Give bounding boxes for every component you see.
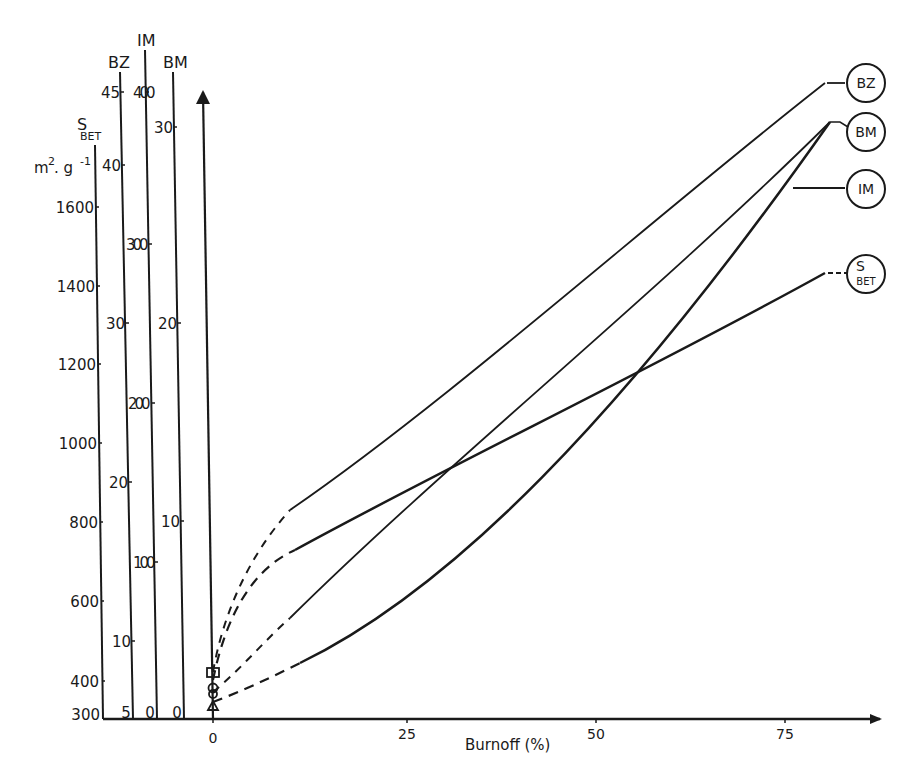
im-tick: 200 <box>128 395 150 413</box>
legend-item-bm: BM <box>847 113 885 151</box>
bz-axis-title: BZ <box>108 53 130 72</box>
bz-tick: 40 <box>102 157 121 175</box>
y-arrow-axis <box>203 92 213 719</box>
x-tick-25: 25 <box>398 726 416 742</box>
sbet-tick: 800 <box>69 514 98 532</box>
series-bz <box>213 83 845 672</box>
sbet-units-g: . g <box>54 159 73 177</box>
legend-item-sbet: S BET <box>847 255 885 293</box>
sbet-tick: 1000 <box>59 435 97 453</box>
x-tick-50: 50 <box>587 726 605 742</box>
bz-tick: 20 <box>109 474 128 492</box>
series-im <box>213 122 845 702</box>
sbet-tick: 300 <box>71 706 100 724</box>
bm-axis-title: BM <box>163 53 188 72</box>
series-bm <box>213 122 848 692</box>
bm-tick: 0 <box>172 704 182 722</box>
im-tick: 400 <box>133 84 155 102</box>
legend-label-im: IM <box>858 181 874 197</box>
sbet-tick: 600 <box>70 593 99 611</box>
im-tick: 0 <box>145 704 155 722</box>
legend-item-bz: BZ <box>847 64 885 102</box>
sbet-units-exp: -1 <box>80 155 91 168</box>
bz-tick: 5 <box>121 704 131 722</box>
legend-label-bz: BZ <box>856 75 875 91</box>
legend-item-im: IM <box>847 170 885 208</box>
sbet-tick: 1600 <box>56 199 94 217</box>
x-tick-0: 0 <box>209 730 218 746</box>
x-axis: 0 25 50 75 Burnoff (%) <box>103 719 880 754</box>
x-tick-75: 75 <box>776 726 794 742</box>
legend-label-sbet-sub: BET <box>856 276 876 287</box>
x-axis-label: Burnoff (%) <box>465 736 550 754</box>
bm-axis: BM 30 20 10 0 <box>154 53 188 722</box>
chart-canvas: 0 25 50 75 Burnoff (%) S BET m 2 . g -1 … <box>0 0 922 783</box>
bz-tick: 30 <box>106 315 125 333</box>
legend-label-bm: BM <box>855 124 877 140</box>
im-tick: 100 <box>133 554 155 572</box>
legend: BZ BM IM S BET <box>847 64 885 293</box>
bm-tick: 30 <box>154 119 173 137</box>
sbet-tick: 1200 <box>58 356 96 374</box>
im-axis-title: IM <box>137 31 156 50</box>
bz-tick: 10 <box>112 633 131 651</box>
bz-axis: BZ 45 40 30 20 10 5 <box>101 53 135 722</box>
sbet-tick: 400 <box>70 673 99 691</box>
sbet-axis: S BET m 2 . g -1 1600 1400 1200 1000 800… <box>34 115 105 724</box>
im-tick: 300 <box>126 236 148 254</box>
series-sbet <box>213 273 847 680</box>
sbet-axis-subscript: BET <box>80 130 101 143</box>
bz-tick: 45 <box>101 84 120 102</box>
bm-tick: 20 <box>158 315 177 333</box>
sbet-units-m: m <box>34 159 49 177</box>
bm-tick: 10 <box>161 513 180 531</box>
sbet-tick: 1400 <box>57 278 95 296</box>
legend-label-sbet-main: S <box>856 258 865 274</box>
